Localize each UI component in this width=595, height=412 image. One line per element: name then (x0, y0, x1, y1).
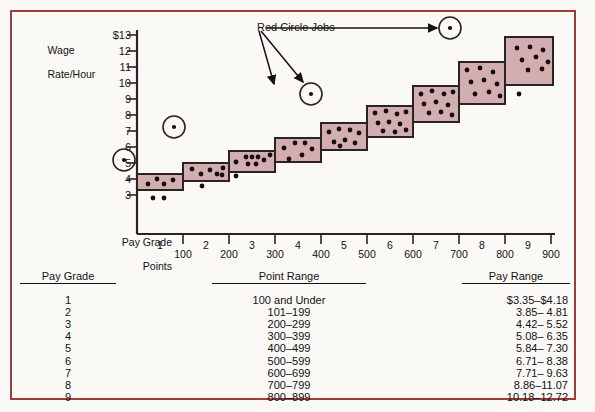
figure-border: Wage Rate/Hour Pay Grade Points $13 12 1… (10, 10, 576, 400)
chart-svg (12, 12, 578, 262)
cell-points: 101–199 (212, 306, 366, 318)
cell-points: 800–899 (212, 391, 366, 403)
cell-spacer (116, 330, 212, 342)
table-row: 4 300–399 5.08– 6.35 (20, 330, 570, 342)
cell-points: 200–299 (212, 318, 366, 330)
table-row: 1 100 and Under $3.35–$4.18 (20, 294, 570, 306)
cell-points: 100 and Under (212, 294, 366, 306)
x-point-500: 500 (352, 248, 382, 260)
x-grade-1: 1 (152, 239, 168, 251)
x-point-900: 900 (536, 248, 566, 260)
pay-grade-box-9 (505, 37, 553, 85)
cell-spacer (366, 306, 462, 318)
table-header-row: Pay Grade Point Range Pay Range (20, 270, 570, 284)
cell-spacer (116, 318, 212, 330)
cell-pay: 6.71– 8.38 (462, 355, 570, 367)
pay-grade-box-1 (137, 174, 183, 190)
col-header-pay-grade: Pay Grade (20, 270, 116, 284)
cell-spacer (366, 355, 462, 367)
cell-spacer (366, 379, 462, 391)
y-tick-marks (127, 35, 137, 195)
callout-arrows (259, 28, 437, 84)
cell-pay: 5.08– 6.35 (462, 330, 570, 342)
cell-spacer (366, 342, 462, 354)
cell-points: 400–499 (212, 342, 366, 354)
cell-spacer (366, 294, 462, 306)
cell-spacer (116, 379, 212, 391)
table-row: 2 101–199 3.85– 4.81 (20, 306, 570, 318)
x-point-400: 400 (306, 248, 336, 260)
cell-spacer (366, 367, 462, 379)
x-grade-5: 5 (336, 239, 352, 251)
cell-pay: 8.86–11.07 (462, 379, 570, 391)
cell-grade: 3 (20, 318, 116, 330)
pay-grade-box-5 (321, 123, 367, 150)
cell-grade: 4 (20, 330, 116, 342)
pay-grade-boxes (137, 37, 553, 190)
x-grade-2: 2 (198, 239, 214, 251)
cell-spacer (116, 355, 212, 367)
table-row: 9 800–899 10.18–12.72 (20, 391, 570, 403)
cell-points: 300–399 (212, 330, 366, 342)
x-point-300: 300 (260, 248, 290, 260)
cell-grade: 8 (20, 379, 116, 391)
col-header-pay-range: Pay Range (462, 270, 570, 284)
x-grade-6: 6 (382, 239, 398, 251)
cell-spacer (366, 330, 462, 342)
cell-spacer (366, 318, 462, 330)
cell-spacer (116, 391, 212, 403)
x-point-600: 600 (398, 248, 428, 260)
table-row: 7 600–699 7.71– 9.63 (20, 367, 570, 379)
red-circle-marker-1 (113, 149, 135, 171)
x-grade-7: 7 (428, 239, 444, 251)
cell-grade: 5 (20, 342, 116, 354)
x-tick-marks (183, 234, 551, 244)
table-gap-cell (20, 284, 570, 294)
table-gap-row (20, 284, 570, 294)
table-row: 3 200–299 4.42– 5.52 (20, 318, 570, 330)
cell-pay: 4.42– 5.52 (462, 318, 570, 330)
cell-points: 600–699 (212, 367, 366, 379)
cell-pay: 10.18–12.72 (462, 391, 570, 403)
cell-pay: 5.84– 7.30 (462, 342, 570, 354)
cell-grade: 9 (20, 391, 116, 403)
cell-grade: 6 (20, 355, 116, 367)
cell-spacer (116, 294, 212, 306)
cell-grade: 1 (20, 294, 116, 306)
col-header-point-range: Point Range (212, 270, 366, 284)
cell-grade: 2 (20, 306, 116, 318)
red-circle-jobs-label: Red Circle Jobs (257, 21, 335, 33)
table-row: 6 500–599 6.71– 8.38 (20, 355, 570, 367)
cell-spacer (116, 342, 212, 354)
x-grade-8: 8 (474, 239, 490, 251)
x-grade-3: 3 (244, 239, 260, 251)
table-body: 1 100 and Under $3.35–$4.18 2 101–199 3.… (20, 284, 570, 404)
pay-structure-table: Pay Grade Point Range Pay Range 1 100 an… (20, 270, 570, 403)
cell-pay: 3.85– 4.81 (462, 306, 570, 318)
spacer-header-left (116, 270, 212, 284)
red-circle-marker-3 (300, 83, 322, 105)
x-grade-4: 4 (290, 239, 306, 251)
x-point-200: 200 (214, 248, 244, 260)
callout-arrow-left (259, 31, 274, 84)
table-row: 5 400–499 5.84– 7.30 (20, 342, 570, 354)
cell-pay: $3.35–$4.18 (462, 294, 570, 306)
x-point-700: 700 (444, 248, 474, 260)
pay-grade-box-2 (183, 163, 229, 181)
cell-pay: 7.71– 9.63 (462, 367, 570, 379)
x-grade-9: 9 (520, 239, 536, 251)
x-point-100: 100 (168, 248, 198, 260)
cell-spacer (116, 367, 212, 379)
cell-spacer (366, 391, 462, 403)
chart-stage: Wage Rate/Hour Pay Grade Points $13 12 1… (12, 12, 578, 402)
cell-points: 700–799 (212, 379, 366, 391)
red-circle-marker-4 (439, 17, 461, 39)
callout-arrow-middle (261, 31, 303, 82)
cell-points: 500–599 (212, 355, 366, 367)
cell-grade: 7 (20, 367, 116, 379)
cell-spacer (116, 306, 212, 318)
spacer-header-right (366, 270, 462, 284)
table-row: 8 700–799 8.86–11.07 (20, 379, 570, 391)
red-circle-marker-2 (163, 116, 185, 138)
x-point-800: 800 (490, 248, 520, 260)
